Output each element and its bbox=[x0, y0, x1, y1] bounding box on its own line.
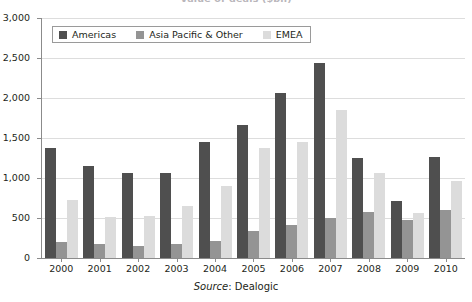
y-tick-label: 1,000 bbox=[0, 172, 30, 183]
bar bbox=[336, 110, 347, 258]
source-value: Dealogic bbox=[235, 281, 279, 292]
bar bbox=[413, 213, 424, 258]
bar bbox=[352, 158, 363, 258]
bar bbox=[363, 212, 374, 258]
x-tick-label: 2009 bbox=[388, 263, 426, 274]
legend-label-emea: EMEA bbox=[276, 29, 303, 40]
bar bbox=[429, 157, 440, 258]
bar bbox=[122, 173, 133, 258]
x-tick-label: 2008 bbox=[350, 263, 388, 274]
bar bbox=[160, 173, 171, 258]
bar bbox=[325, 218, 336, 258]
chart-legend: Americas Asia Pacific & Other EMEA bbox=[52, 26, 311, 43]
bar bbox=[94, 244, 105, 258]
x-tick-mark bbox=[100, 258, 101, 262]
bar bbox=[199, 142, 210, 258]
y-tick-label: 0 bbox=[0, 252, 30, 263]
bar bbox=[67, 200, 78, 258]
bar bbox=[237, 125, 248, 258]
y-tick-label: 1,500 bbox=[0, 132, 30, 143]
plot-area: 05001,0001,5002,0002,5003,000 bbox=[41, 18, 465, 258]
x-tick-mark bbox=[215, 258, 216, 262]
x-tick-label: 2000 bbox=[42, 263, 80, 274]
y-tick-mark bbox=[37, 98, 41, 99]
legend-label-americas: Americas bbox=[72, 29, 116, 40]
x-tick-label: 2001 bbox=[80, 263, 118, 274]
bar bbox=[297, 142, 308, 258]
x-tick-mark bbox=[330, 258, 331, 262]
bar bbox=[275, 93, 286, 258]
source-separator: : bbox=[228, 281, 231, 292]
bar-group bbox=[427, 18, 465, 258]
legend-item-emea: EMEA bbox=[263, 29, 303, 40]
source-label: Source bbox=[194, 281, 229, 292]
bar bbox=[83, 166, 94, 258]
legend-swatch-icon-asia-pacific-other bbox=[136, 31, 144, 39]
x-tick-mark bbox=[292, 258, 293, 262]
bar-group bbox=[388, 18, 426, 258]
legend-label-asia-pacific-other: Asia Pacific & Other bbox=[149, 29, 243, 40]
bar-group bbox=[42, 18, 80, 258]
bar bbox=[286, 225, 297, 258]
x-tick-mark bbox=[253, 258, 254, 262]
bar bbox=[440, 210, 451, 258]
legend-swatch-icon-emea bbox=[263, 31, 271, 39]
x-tick-label: 2003 bbox=[157, 263, 195, 274]
bar-group bbox=[119, 18, 157, 258]
y-tick-label: 2,500 bbox=[0, 52, 30, 63]
y-tick-mark bbox=[37, 58, 41, 59]
bar bbox=[45, 148, 56, 258]
bar-group bbox=[311, 18, 349, 258]
bar bbox=[221, 186, 232, 258]
x-tick-label: 2004 bbox=[196, 263, 234, 274]
bar-group bbox=[157, 18, 195, 258]
y-tick-mark bbox=[37, 178, 41, 179]
chart-title: Value of deals ($bn) bbox=[0, 0, 472, 4]
bar bbox=[374, 173, 385, 258]
bar bbox=[171, 244, 182, 258]
bar bbox=[210, 241, 221, 258]
bar bbox=[248, 231, 259, 258]
x-axis-labels: 2000200120022003200420052006200720082009… bbox=[42, 263, 465, 274]
x-tick-mark bbox=[61, 258, 62, 262]
bar-group bbox=[80, 18, 118, 258]
x-tick-mark bbox=[138, 258, 139, 262]
x-tick-label: 2007 bbox=[311, 263, 349, 274]
x-tick-label: 2005 bbox=[234, 263, 272, 274]
bar bbox=[259, 148, 270, 258]
x-tick-mark bbox=[407, 258, 408, 262]
bar bbox=[402, 220, 413, 258]
x-tick-label: 2006 bbox=[273, 263, 311, 274]
bar bbox=[105, 217, 116, 258]
y-tick-label: 3,000 bbox=[0, 12, 30, 23]
x-tick-label: 2010 bbox=[427, 263, 465, 274]
bar bbox=[133, 246, 144, 258]
y-tick-label: 500 bbox=[0, 212, 30, 223]
bar bbox=[451, 181, 462, 258]
y-tick-label: 2,000 bbox=[0, 92, 30, 103]
source-note: Source: Dealogic bbox=[0, 281, 472, 292]
chart-figure: Value of deals ($bn) 05001,0001,5002,000… bbox=[0, 0, 472, 302]
x-tick-mark bbox=[369, 258, 370, 262]
bar bbox=[56, 242, 67, 258]
legend-item-americas: Americas bbox=[59, 29, 116, 40]
bar-group bbox=[350, 18, 388, 258]
x-tick-mark bbox=[446, 258, 447, 262]
bar-group bbox=[234, 18, 272, 258]
bar bbox=[314, 63, 325, 258]
legend-item-asia-pacific-other: Asia Pacific & Other bbox=[136, 29, 243, 40]
bar-groups bbox=[42, 18, 465, 258]
bar bbox=[391, 201, 402, 258]
bar-group bbox=[196, 18, 234, 258]
y-tick-mark bbox=[37, 138, 41, 139]
y-tick-mark bbox=[37, 218, 41, 219]
y-tick-mark bbox=[37, 258, 41, 259]
x-tick-label: 2002 bbox=[119, 263, 157, 274]
y-tick-mark bbox=[37, 18, 41, 19]
x-tick-mark bbox=[177, 258, 178, 262]
bar bbox=[182, 206, 193, 258]
bar bbox=[144, 216, 155, 258]
legend-swatch-icon-americas bbox=[59, 31, 67, 39]
bar-group bbox=[273, 18, 311, 258]
